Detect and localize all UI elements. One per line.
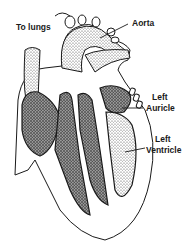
heart-diagram bbox=[0, 0, 191, 245]
label-left-auricle-1: Left bbox=[152, 92, 168, 102]
label-left-ventricle-2: Ventricle bbox=[146, 145, 181, 155]
aorta-leader bbox=[100, 24, 128, 38]
to-lungs-vessel bbox=[55, 13, 70, 16]
label-aorta: Aorta bbox=[132, 18, 154, 28]
label-to-lungs: To lungs bbox=[16, 22, 51, 32]
label-left-ventricle-1: Left bbox=[155, 134, 171, 144]
aorta-branch bbox=[92, 17, 100, 27]
aorta-branch bbox=[65, 16, 75, 28]
aorta-branch bbox=[78, 15, 86, 25]
aorta-branch bbox=[111, 37, 119, 43]
label-left-auricle-2: Auricle bbox=[146, 103, 175, 113]
